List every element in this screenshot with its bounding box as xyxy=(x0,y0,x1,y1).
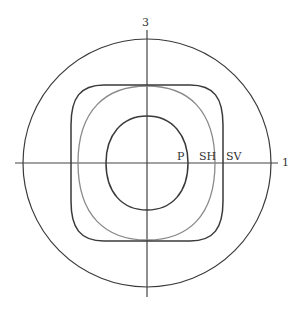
axis-label-1: 1 xyxy=(282,157,289,168)
label-sh: SH xyxy=(199,151,216,162)
axis-label-3: 3 xyxy=(142,17,149,28)
label-p: P xyxy=(177,151,184,162)
label-sv: SV xyxy=(226,151,241,162)
wave-surface-diagram xyxy=(0,0,300,311)
